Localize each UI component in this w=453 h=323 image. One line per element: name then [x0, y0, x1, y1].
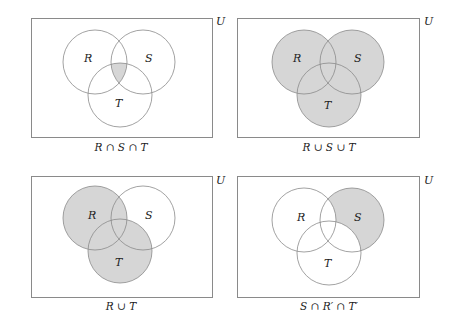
- set-r-label: R: [87, 209, 96, 222]
- panel-caption: R ∩ S ∩ T: [93, 141, 148, 153]
- set-r-circle: [63, 30, 127, 94]
- set-s-circle: [111, 30, 175, 94]
- panel-caption: R ∪ S ∪ T: [301, 141, 356, 153]
- venn-panel-union-all: U R S T R ∪ S ∪ T: [238, 15, 435, 153]
- set-r-label: R: [296, 211, 305, 224]
- venn-diagram-figure: U R S T R ∩ S ∩ T U R S T R ∪ S ∪ T U: [0, 0, 453, 323]
- venn-panel-union-r-t: U R S T R ∪ T: [32, 174, 227, 312]
- set-r-label: R: [83, 52, 92, 65]
- universe-label: U: [424, 15, 434, 28]
- universe-label: U: [216, 174, 226, 187]
- venn-panel-s-only: U R S T S ∩ R′ ∩ T′: [238, 174, 435, 312]
- venn-panel-intersection: U R S T R ∩ S ∩ T: [32, 15, 227, 153]
- set-t-label: T: [115, 97, 124, 110]
- set-s-label: S: [145, 52, 153, 65]
- universe-label: U: [424, 174, 434, 187]
- set-r-label: R: [292, 52, 301, 65]
- set-t-label: T: [324, 257, 333, 270]
- set-s-label: S: [354, 52, 362, 65]
- panel-caption: S ∩ R′ ∩ T′: [300, 300, 358, 312]
- set-s-label: S: [354, 211, 362, 224]
- set-s-label: S: [145, 209, 153, 222]
- panel-caption: R ∪ T: [105, 300, 137, 312]
- universe-label: U: [216, 15, 226, 28]
